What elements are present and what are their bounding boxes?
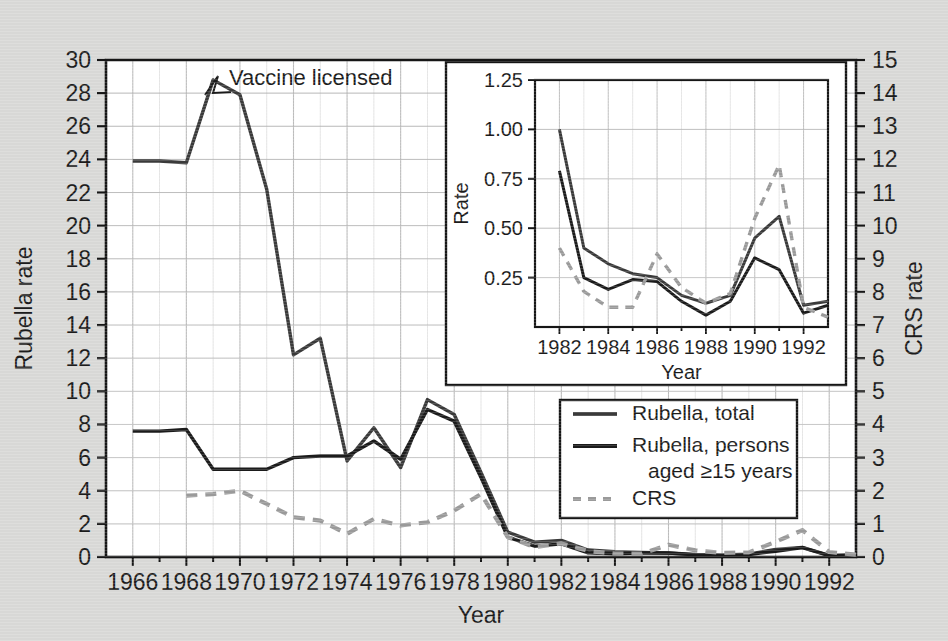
y-axis-right-tick-label: 1 <box>872 511 885 537</box>
y-axis-right-tick-label: 0 <box>872 544 885 570</box>
y-axis-right-tick-label: 4 <box>872 411 885 437</box>
inset-y-tick-label: 0.75 <box>484 168 523 190</box>
y-axis-left-tick-label: 22 <box>65 180 91 206</box>
annotation-label: Vaccine licensed <box>229 65 392 90</box>
inset-x-tick-label: 1982 <box>537 336 582 358</box>
y-axis-right-tick-label: 11 <box>872 180 896 206</box>
legend-label-0: Rubella, total <box>632 401 755 424</box>
y-axis-left-tick-label: 16 <box>65 279 91 305</box>
x-axis-tick-label: 1990 <box>750 569 801 595</box>
y-axis-right-tick-label: 14 <box>872 80 898 106</box>
x-axis-tick-label: 1986 <box>643 569 694 595</box>
x-axis-tick-label: 1988 <box>696 569 747 595</box>
y-axis-right-tick-label: 7 <box>872 312 885 338</box>
y-axis-left-tick-label: 12 <box>65 345 91 371</box>
y-axis-right-tick-label: 5 <box>872 378 885 404</box>
y-axis-left-tick-label: 18 <box>65 246 91 272</box>
y-axis-right-tick-label: 9 <box>872 246 885 272</box>
inset-y-axis-title: Rate <box>450 182 472 224</box>
legend-label-1: Rubella, persons <box>632 433 790 456</box>
inset-x-tick-label: 1988 <box>684 336 729 358</box>
x-axis: 1966196819701972197419761978198019821984… <box>107 557 855 595</box>
x-axis-tick-label: 1966 <box>107 569 158 595</box>
y-axis-left-tick-label: 2 <box>78 511 91 537</box>
y-axis-left-tick-label: 6 <box>78 445 91 471</box>
inset-y-tick-label: 1.00 <box>484 118 523 140</box>
y-axis-right-tick-label: 12 <box>872 146 898 172</box>
y-axis-left-tick-label: 20 <box>65 213 91 239</box>
y-axis-left-tick-label: 4 <box>78 478 91 504</box>
x-axis-tick-label: 1984 <box>589 569 640 595</box>
y-axis-left-tick-label: 8 <box>78 411 91 437</box>
y-axis-left: 024681012141618202224262830 <box>65 47 106 570</box>
y-axis-left-title: Rubella rate <box>11 246 37 370</box>
x-axis-tick-label: 1972 <box>268 569 319 595</box>
inset-x-tick-label: 1992 <box>781 336 826 358</box>
legend-label-2: aged ≥15 years <box>648 459 793 482</box>
y-axis-right-tick-label: 15 <box>872 47 898 73</box>
y-axis-right-tick-label: 2 <box>872 478 885 504</box>
y-axis-right-tick-label: 10 <box>872 213 898 239</box>
y-axis-right-tick-label: 6 <box>872 345 885 371</box>
inset-y-tick-label: 1.25 <box>484 69 523 91</box>
x-axis-tick-label: 1970 <box>214 569 265 595</box>
x-axis-tick-label: 1976 <box>375 569 426 595</box>
inset-x-tick-label: 1990 <box>733 336 778 358</box>
x-axis-tick-label: 1992 <box>804 569 855 595</box>
x-axis-tick-label: 1968 <box>161 569 212 595</box>
y-axis-left-tick-label: 26 <box>65 113 91 139</box>
inset-x-tick-label: 1984 <box>586 336 631 358</box>
x-axis-tick-label: 1978 <box>429 569 480 595</box>
y-axis-left-tick-label: 10 <box>65 378 91 404</box>
x-axis-tick-label: 1982 <box>536 569 587 595</box>
y-axis-left-tick-label: 28 <box>65 80 91 106</box>
x-axis-tick-label: 1974 <box>321 569 372 595</box>
y-axis-left-tick-label: 24 <box>65 146 91 172</box>
inset-y-tick-label: 0.50 <box>484 217 523 239</box>
y-axis-right-tick-label: 8 <box>872 279 885 305</box>
inset-x-axis-title: Year <box>661 361 702 383</box>
y-axis-left-tick-label: 0 <box>78 544 91 570</box>
y-axis-left-tick-label: 30 <box>65 47 91 73</box>
y-axis-right-tick-label: 3 <box>872 445 885 471</box>
y-axis-left-tick-label: 14 <box>65 312 91 338</box>
y-axis-right-title: CRS rate <box>901 261 927 356</box>
chart-canvas: 024681012141618202224262830Rubella rate0… <box>0 0 948 641</box>
rubella-crs-figure: 024681012141618202224262830Rubella rate0… <box>0 0 948 641</box>
legend: Rubella, totalRubella, personsaged ≥15 y… <box>560 400 797 518</box>
y-axis-right-tick-label: 13 <box>872 113 898 139</box>
legend-label-3: CRS <box>632 486 676 509</box>
x-axis-tick-label: 1980 <box>482 569 533 595</box>
y-axis-right: 0123456789101112131415 <box>856 47 898 570</box>
inset-y-tick-label: 0.25 <box>484 267 523 289</box>
inset-x-tick-label: 1986 <box>635 336 680 358</box>
x-axis-title: Year <box>458 602 505 628</box>
